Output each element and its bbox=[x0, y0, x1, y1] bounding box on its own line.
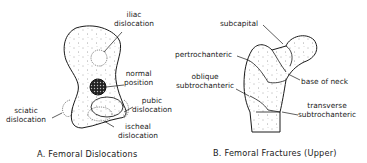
label-line: subtrochanteric bbox=[176, 82, 234, 91]
caption-panel-a: A. Femoral Dislocations bbox=[37, 149, 137, 159]
label-line: dislocation bbox=[6, 116, 46, 125]
label-pertrochanteric: pertrochanteric bbox=[175, 51, 232, 60]
label-normal-position: normal position bbox=[124, 70, 153, 87]
label-line: subtrochanteric bbox=[298, 111, 356, 120]
label-line: dislocation bbox=[132, 106, 172, 115]
label-transverse-subtrochanteric: transverse subtrochanteric bbox=[298, 102, 356, 119]
label-oblique-subtrochanteric: oblique subtrochanteric bbox=[176, 73, 234, 90]
label-pubic-dislocation: pubic dislocation bbox=[132, 97, 172, 114]
label-subcapital: subcapital bbox=[220, 20, 258, 29]
label-iliac-dislocation: iliac dislocation bbox=[114, 11, 154, 28]
normal-position-marker bbox=[90, 79, 106, 95]
caption-panel-b: B. Femoral Fractures (Upper) bbox=[213, 148, 337, 158]
pelvis-outline bbox=[64, 26, 126, 128]
label-base-of-neck: base of neck bbox=[301, 78, 348, 87]
label-line: dislocation bbox=[118, 132, 158, 141]
label-line: position bbox=[124, 79, 153, 88]
label-line: dislocation bbox=[114, 20, 154, 29]
label-ischeal-dislocation: ischeal dislocation bbox=[118, 123, 158, 140]
label-sciatic-dislocation: sciatic dislocation bbox=[6, 107, 46, 124]
iliac-dislocation-marker bbox=[91, 50, 107, 66]
